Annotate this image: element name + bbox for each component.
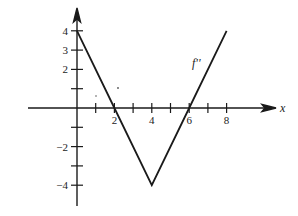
scan-speck <box>95 95 97 97</box>
y-tick-label: −2 <box>56 141 68 153</box>
x-axis-arrow-icon <box>262 105 276 112</box>
chart: 2468432−2−4 f'' x <box>0 0 298 216</box>
x-tick-label: 4 <box>149 114 155 126</box>
y-tick-label: 3 <box>63 44 69 56</box>
x-axis-label: x <box>279 101 286 115</box>
scan-speck <box>117 87 119 89</box>
y-tick-label: −4 <box>56 179 68 191</box>
curve-label: f'' <box>192 56 201 70</box>
y-tick-label: 2 <box>63 63 69 75</box>
x-tick-label: 8 <box>224 114 230 126</box>
x-tick-label: 2 <box>112 114 118 126</box>
y-tick-label: 4 <box>63 25 69 37</box>
y-axis-arrow-icon <box>74 8 81 22</box>
x-tick-label: 6 <box>186 114 192 126</box>
